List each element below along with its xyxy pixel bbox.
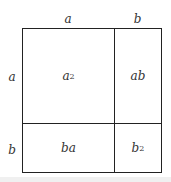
- top-label-b: b: [114, 12, 161, 26]
- cell-b-squared-exp: 2: [139, 144, 144, 153]
- cell-a-squared-base: a: [62, 69, 69, 83]
- cell-a-squared: a2: [22, 28, 115, 124]
- cell-b-squared: b2: [114, 123, 162, 173]
- top-label-a: a: [22, 12, 114, 26]
- cell-ba: ba: [22, 123, 115, 173]
- side-label-b: b: [4, 143, 20, 157]
- cell-b-squared-base: b: [132, 141, 140, 155]
- bottom-strip: [0, 177, 171, 182]
- cell-ab: ab: [114, 28, 162, 124]
- cell-a-squared-exp: 2: [70, 72, 75, 81]
- side-label-a: a: [4, 70, 20, 84]
